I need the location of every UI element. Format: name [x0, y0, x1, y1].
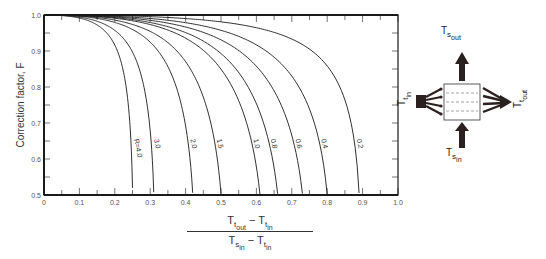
- tube-outlet-temp-label: Ttout: [513, 90, 525, 108]
- x-tick-label: 0: [42, 199, 46, 206]
- x-label-numerator: Ttout − Ttin: [185, 213, 315, 230]
- plot-frame: [44, 15, 398, 195]
- y-axis-label: Correction factor, F: [15, 62, 26, 147]
- curve-label: 1.0: [253, 138, 262, 149]
- y-tick-label: 0.9: [31, 48, 41, 55]
- x-tick-label: 0.7: [287, 199, 297, 206]
- x-tick-label: 1.0: [393, 199, 403, 206]
- curve-r-2.0: [44, 15, 193, 193]
- y-tick-label: 1.0: [31, 12, 41, 19]
- curve-r-1.5: [44, 15, 221, 194]
- x-tick-label: 0.5: [216, 199, 226, 206]
- curve-r-3.0: [44, 15, 154, 192]
- x-axis-label: Ttout − Ttin Tsin − Ttin: [185, 213, 315, 250]
- curve-r-0.4: [44, 15, 327, 195]
- curve-r-4.0: [44, 15, 133, 188]
- curve-r-0.2: [44, 15, 359, 193]
- x-tick-label: 0.6: [252, 199, 262, 206]
- curve-label: 0.2: [356, 138, 365, 149]
- shell-inlet-temp-label: Tsin: [446, 148, 462, 160]
- curve-label: 3.0: [153, 138, 162, 149]
- curve-r-0.8: [44, 15, 278, 194]
- curves: R=4.03.02.01.51.00.80.60.40.2: [44, 15, 365, 195]
- curve-r-0.6: [44, 15, 302, 194]
- curve-r-1.0: [44, 15, 260, 194]
- curve-label: 1.5: [216, 138, 225, 149]
- y-tick-label: 0.5: [31, 192, 41, 199]
- plot-border: [44, 15, 398, 195]
- y-tick-label: 0.8: [31, 84, 41, 91]
- x-tick-label: 0.8: [322, 199, 332, 206]
- curve-label: 2.0: [190, 138, 199, 149]
- curve-label: 0.6: [294, 138, 303, 149]
- x-tick-label: 0.9: [358, 199, 368, 206]
- x-tick-label: 0.1: [75, 199, 85, 206]
- y-tick-label: 0.6: [31, 156, 41, 163]
- tube-inlet-arrows-icon: [439, 112, 442, 115]
- shell-outlet-temp-label: Tsout: [441, 26, 461, 38]
- x-tick-label: 0.3: [145, 199, 155, 206]
- x-label-denominator: Tsin − Ttin: [185, 233, 315, 250]
- exchanger-diagram: [416, 52, 512, 148]
- shell-outlet-arrow-icon: [455, 52, 469, 64]
- x-tick-label: 0.2: [110, 199, 120, 206]
- tube-outlet-arrow-icon: [500, 95, 512, 109]
- shell-inlet-arrow-icon: [455, 122, 469, 131]
- y-tick-label: 0.7: [31, 120, 41, 127]
- curve-label: 0.4: [320, 138, 329, 149]
- tube-inlet-temp-label: Ttin: [397, 92, 409, 106]
- curve-label: 0.8: [270, 138, 279, 149]
- x-tick-label: 0.4: [181, 199, 191, 206]
- curve-label: R=4.0: [133, 138, 144, 158]
- fraction-bar: [187, 231, 313, 232]
